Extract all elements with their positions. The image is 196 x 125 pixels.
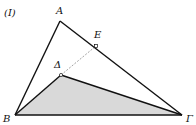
segment-delta-e-dashed — [61, 46, 96, 75]
label-b: B — [2, 113, 10, 124]
label-delta: Δ — [53, 59, 61, 70]
label-gamma: Γ — [185, 113, 194, 124]
point-e-marker — [95, 45, 98, 48]
label-e: E — [93, 29, 102, 40]
figure-label: (I) — [4, 7, 16, 18]
point-delta-marker — [59, 73, 62, 76]
geometry-figure: (I) A E Δ B Γ — [0, 0, 196, 125]
label-a: A — [55, 5, 63, 16]
